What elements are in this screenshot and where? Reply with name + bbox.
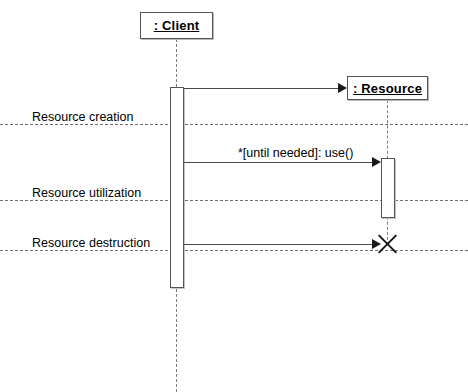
destruction-x-icon: [375, 232, 400, 257]
message-line-destroy[interactable]: [184, 244, 374, 245]
lifeline-box-client[interactable]: : Client: [140, 12, 213, 39]
lifeline-box-resource[interactable]: : Resource: [347, 76, 428, 100]
lifeline-label-client: : Client: [154, 18, 200, 33]
phase-label-resource-destruction: Resource destruction: [30, 236, 152, 250]
message-line-create[interactable]: [184, 88, 340, 89]
phase-label-resource-utilization: Resource utilization: [30, 186, 143, 200]
sequence-diagram-canvas: Resource creation Resource utilization R…: [0, 0, 468, 392]
arrow-head-create-icon: [338, 83, 347, 93]
activation-bar-resource[interactable]: [381, 158, 395, 218]
message-line-use[interactable]: [184, 162, 374, 163]
arrow-head-use-icon: [372, 157, 381, 167]
activation-bar-client[interactable]: [170, 87, 184, 288]
phase-separator-creation: [0, 124, 468, 125]
message-label-use: *[until needed]: use(): [238, 146, 353, 160]
phase-label-resource-creation: Resource creation: [30, 110, 135, 124]
lifeline-label-resource: : Resource: [353, 81, 422, 96]
phase-separator-utilization: [0, 200, 468, 201]
